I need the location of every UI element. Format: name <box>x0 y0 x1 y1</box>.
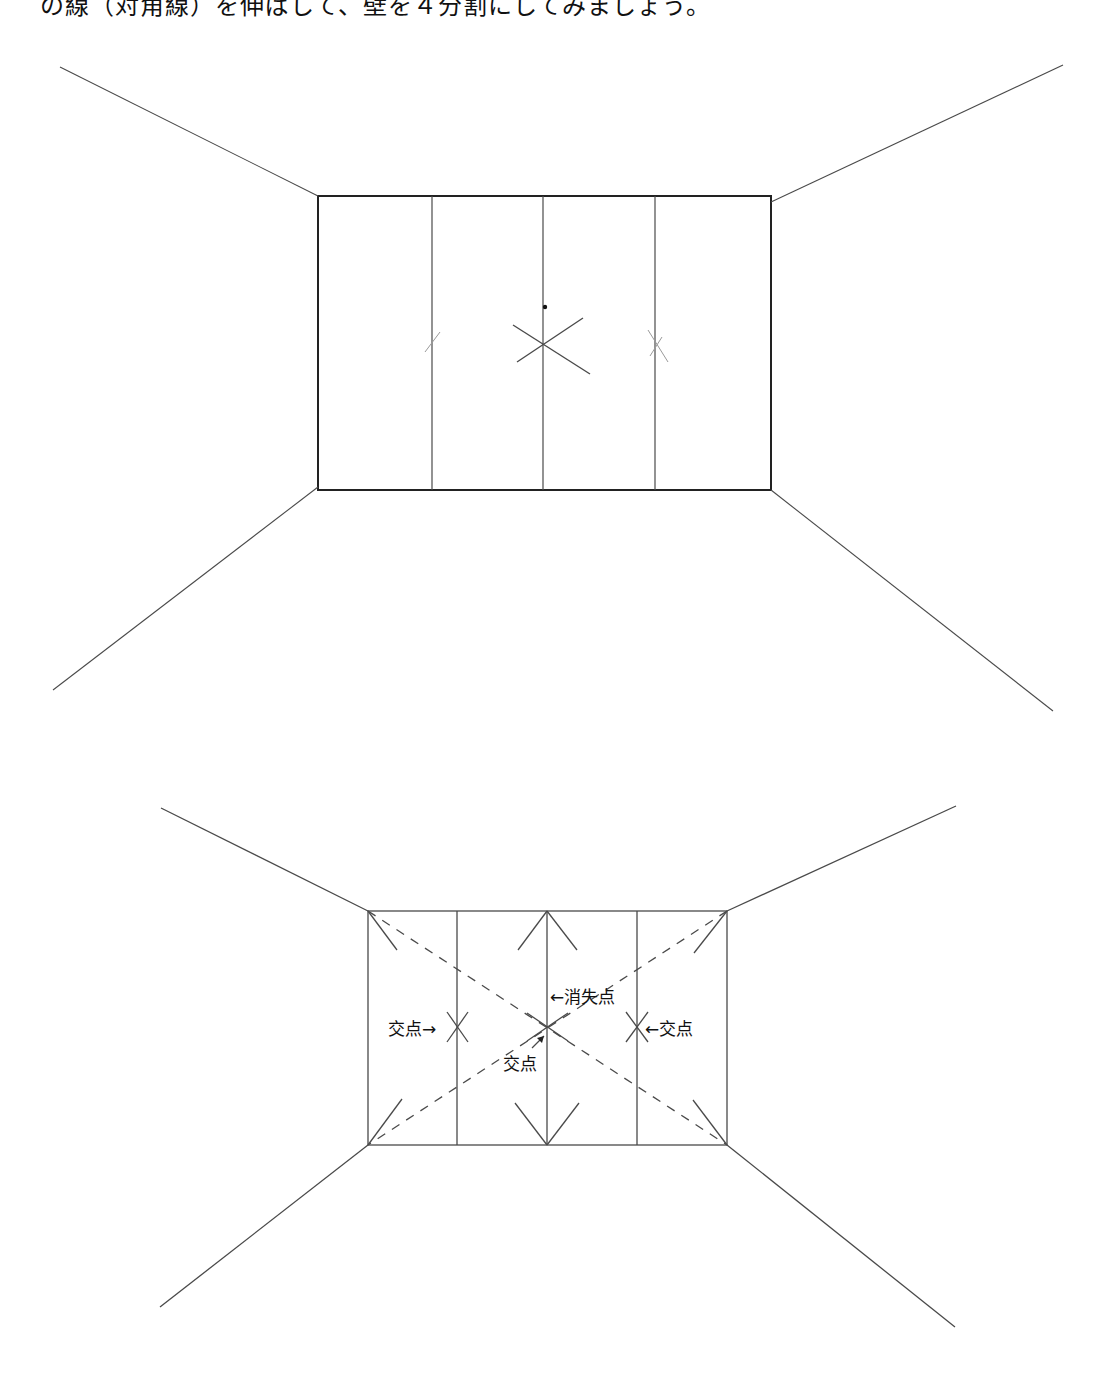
guide-stroke <box>368 911 397 950</box>
perspective-line-top-left <box>161 808 368 911</box>
perspective-line-bottom-left <box>53 487 318 690</box>
label-intersection-left: 交点→ <box>388 1019 436 1039</box>
guide-stroke <box>515 1103 547 1145</box>
perspective-line-top-left <box>60 67 318 196</box>
perspective-line-top-right <box>771 65 1063 202</box>
perspective-figures: ←消失点交点→←交点交点 <box>0 0 1103 1387</box>
annotated-diagram-figure: ←消失点交点→←交点交点 <box>160 806 956 1327</box>
guide-stroke <box>694 911 727 953</box>
pencil-sketch-figure <box>53 65 1063 711</box>
label-intersection-right: ←交点 <box>645 1019 693 1039</box>
perspective-line-bottom-right <box>727 1145 955 1327</box>
perspective-line-top-right <box>727 806 956 911</box>
guide-stroke <box>547 1103 579 1145</box>
side-cross-mark <box>650 337 662 356</box>
perspective-line-bottom-right <box>771 490 1053 711</box>
perspective-line-bottom-left <box>160 1145 368 1307</box>
center-cross-mark <box>517 318 583 362</box>
vanishing-point-dot <box>543 305 547 309</box>
guide-stroke <box>693 1100 727 1145</box>
center-cross-mark <box>513 325 590 374</box>
guide-stroke <box>547 911 577 950</box>
label-vanishing-point: ←消失点 <box>550 987 615 1007</box>
guide-stroke <box>518 911 547 950</box>
label-intersection-center: 交点 <box>503 1054 537 1074</box>
side-cross-mark <box>648 330 668 362</box>
guide-stroke <box>368 1099 402 1145</box>
